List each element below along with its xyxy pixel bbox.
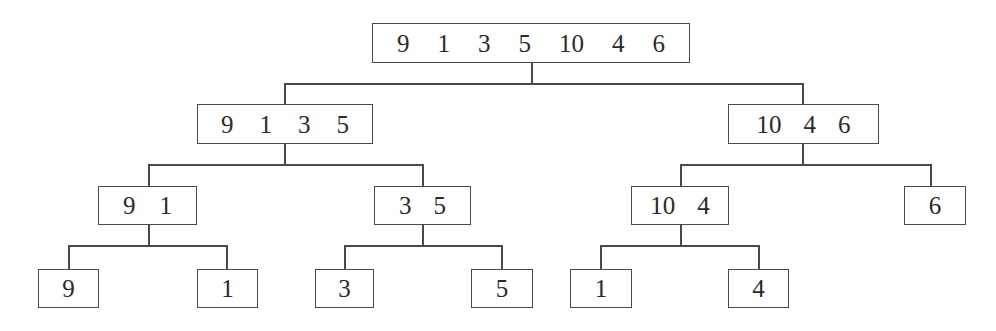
tree-node-rlr: 4 <box>728 269 789 308</box>
tree-node-r: 1046 <box>728 104 879 144</box>
node-value: 9 <box>123 193 136 218</box>
tree-node-rll: 1 <box>570 269 632 308</box>
connector-drop <box>600 245 602 270</box>
connector-drop <box>758 245 760 270</box>
connector-bar <box>600 245 760 247</box>
node-value: 1 <box>438 31 451 56</box>
node-value: 3 <box>338 276 351 301</box>
node-value: 5 <box>519 31 532 56</box>
connector-stem <box>284 144 286 165</box>
node-value: 1 <box>595 276 608 301</box>
node-value: 5 <box>337 112 350 137</box>
node-value: 1 <box>221 276 234 301</box>
tree-node-rl: 104 <box>631 186 729 225</box>
connector-drop <box>802 83 804 105</box>
node-value: 3 <box>478 31 491 56</box>
connector-drop <box>226 245 228 270</box>
tree-node-lrl: 3 <box>315 269 374 308</box>
node-value: 6 <box>838 112 851 137</box>
merge-sort-tree-diagram: 913510469135104691351046913514 <box>0 0 996 331</box>
node-value: 1 <box>260 112 273 137</box>
node-value: 6 <box>929 193 942 218</box>
connector-stem <box>531 63 533 84</box>
node-value: 9 <box>221 112 234 137</box>
node-value: 9 <box>397 31 410 56</box>
connector-stem <box>422 225 424 246</box>
node-value: 9 <box>62 276 75 301</box>
connector-drop <box>501 245 503 270</box>
connector-drop <box>284 83 286 105</box>
node-value: 4 <box>804 112 817 137</box>
connector-bar <box>680 164 932 166</box>
node-value: 10 <box>650 193 675 218</box>
node-value: 5 <box>434 193 447 218</box>
node-value: 5 <box>496 276 509 301</box>
node-value: 1 <box>160 193 173 218</box>
tree-node-lrr: 5 <box>471 269 533 308</box>
tree-node-root: 91351046 <box>372 23 690 63</box>
tree-node-ll: 91 <box>98 186 197 225</box>
connector-bar <box>284 83 804 85</box>
connector-drop <box>680 164 682 187</box>
connector-drop <box>344 245 346 270</box>
connector-stem <box>802 144 804 165</box>
node-value: 3 <box>298 112 311 137</box>
tree-node-lll: 9 <box>38 269 99 308</box>
node-value: 4 <box>697 193 710 218</box>
connector-drop <box>930 164 932 187</box>
tree-node-lr: 35 <box>374 186 471 225</box>
connector-bar <box>344 245 503 247</box>
node-value: 10 <box>757 112 782 137</box>
node-value: 10 <box>559 31 584 56</box>
tree-node-rr: 6 <box>904 186 966 225</box>
connector-bar <box>68 245 228 247</box>
connector-drop <box>68 245 70 270</box>
connector-drop <box>422 164 424 187</box>
node-value: 4 <box>612 31 625 56</box>
connector-stem <box>680 225 682 246</box>
connector-drop <box>148 164 150 187</box>
node-value: 4 <box>752 276 765 301</box>
connector-bar <box>148 164 424 166</box>
tree-node-l: 9135 <box>197 104 373 144</box>
node-value: 3 <box>399 193 412 218</box>
connector-stem <box>148 225 150 246</box>
tree-node-llr: 1 <box>197 269 258 308</box>
node-value: 6 <box>653 31 666 56</box>
